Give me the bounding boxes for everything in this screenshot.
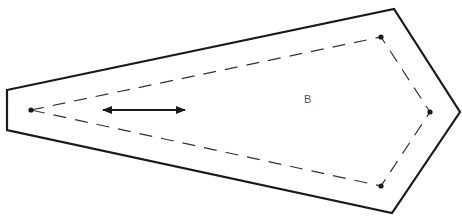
vertex-dot (28, 107, 33, 112)
region-label-b: B (304, 93, 311, 105)
vertex-dot (378, 183, 383, 188)
outer-outline-shape (7, 9, 460, 213)
vertex-dot (427, 109, 432, 114)
vertex-markers (28, 34, 432, 188)
diagram-svg (0, 0, 462, 216)
vertex-dot (378, 34, 383, 39)
diagram-canvas: B (0, 0, 462, 216)
inner-dashed-shape (31, 37, 430, 186)
